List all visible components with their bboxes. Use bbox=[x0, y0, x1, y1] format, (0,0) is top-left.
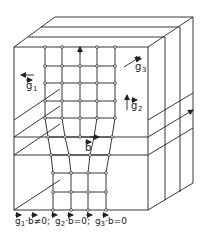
g1-label-sub: 1 bbox=[33, 85, 37, 93]
b-label: b bbox=[85, 142, 91, 153]
svg-text:g1·b≠0; g2·b=0; g3: g1·b≠0; g2·b=0; g3·b=0 bbox=[15, 216, 127, 228]
g2-label-base: g bbox=[131, 100, 137, 111]
g1-label-base: g bbox=[26, 80, 32, 91]
g2-label-sub: 2 bbox=[138, 105, 142, 113]
lattice-grid-bottom bbox=[53, 173, 106, 210]
caption: g1·b≠0; g2·b=0; g3·b=0 bbox=[15, 215, 127, 228]
g3-label-sub: 3 bbox=[142, 66, 146, 74]
caption-g2-rest: ·b=0; bbox=[65, 216, 90, 226]
g1-vector: g 1 bbox=[21, 75, 37, 93]
g3-label-base: g bbox=[135, 61, 141, 72]
caption-g3-rest: ·b=0 bbox=[105, 216, 127, 226]
g2-vector: g 2 bbox=[127, 95, 142, 113]
g3-vector: g 3 bbox=[124, 57, 146, 74]
block-outline bbox=[14, 17, 193, 210]
caption-g1-rest: ·b≠0; bbox=[25, 216, 50, 226]
crystal-block-diagram: b g 1 g 2 g 3 g1·b≠0; g2·b=0; g3·b=0 bbox=[0, 0, 204, 239]
